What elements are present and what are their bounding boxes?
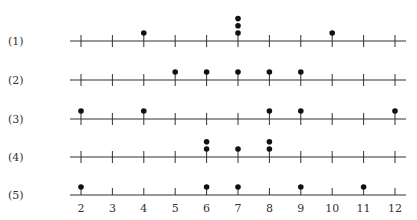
row-label: (2) [8, 74, 24, 87]
x-tick-label: 12 [388, 202, 402, 215]
row-label: (4) [8, 151, 24, 164]
data-point [78, 108, 84, 114]
data-point [235, 146, 241, 152]
row-label: (5) [8, 189, 24, 202]
x-tick-label: 7 [235, 202, 242, 215]
data-point [329, 30, 335, 36]
data-point [392, 108, 398, 114]
data-point [204, 184, 210, 190]
data-point [361, 184, 367, 190]
data-point [141, 30, 147, 36]
x-tick-label: 10 [325, 202, 339, 215]
data-point [172, 69, 178, 75]
data-point [235, 30, 241, 36]
data-point [298, 69, 304, 75]
data-point [204, 146, 210, 152]
data-point [204, 139, 210, 145]
data-point [267, 108, 273, 114]
data-point [78, 184, 84, 190]
x-tick-label: 8 [266, 202, 273, 215]
x-tick-label: 9 [297, 202, 304, 215]
x-tick-label: 3 [109, 202, 116, 215]
x-tick-label: 4 [140, 202, 147, 215]
x-tick-label: 6 [203, 202, 210, 215]
data-point [235, 16, 241, 22]
data-point [141, 108, 147, 114]
row-label: (1) [8, 35, 24, 48]
x-tick-label: 2 [78, 202, 85, 215]
data-point [204, 69, 210, 75]
row-label: (3) [8, 113, 24, 126]
data-point [298, 184, 304, 190]
x-tick-label: 11 [357, 202, 371, 215]
dot-plot-chart: (1)(2)(3)(4)(5)23456789101112 [0, 0, 417, 220]
data-point [267, 139, 273, 145]
data-point [298, 108, 304, 114]
data-point [235, 69, 241, 75]
data-point [267, 146, 273, 152]
data-point [267, 69, 273, 75]
data-point [235, 23, 241, 29]
x-tick-label: 5 [172, 202, 179, 215]
data-point [235, 184, 241, 190]
